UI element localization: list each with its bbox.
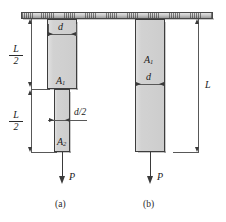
panel-b-caption: (b)	[143, 200, 154, 210]
panel-b-area1-label: A1	[144, 55, 153, 66]
panel-b-d-arrow-left-icon	[136, 82, 141, 86]
fixed-support-hatching	[21, 12, 213, 19]
panel-b-length-top-arrow-icon	[195, 19, 199, 24]
panel-b-length-bottom-arrow-icon	[195, 147, 199, 152]
panel-a-d-arrow-left-icon	[48, 32, 53, 36]
panel-a-d2-arrow-right-icon	[65, 118, 70, 122]
panel-b-d-label: d	[146, 72, 151, 82]
engineering-figure: d A1 d/2 A2 L 2 L 2 P (a) A1 d L	[0, 0, 226, 222]
panel-b-area1-subscript: 1	[150, 58, 153, 65]
panel-a-length-upper-denominator: 2	[9, 55, 23, 67]
panel-a-length-mid-arrow-upper-icon	[28, 82, 32, 87]
panel-a-area1-subscript: 1	[62, 79, 65, 86]
panel-a-length-lower-label: L 2	[9, 110, 23, 132]
panel-a-length-bottom-arrow-icon	[28, 147, 32, 152]
panel-a-area1-label: A1	[56, 76, 65, 87]
panel-a-force-line	[62, 152, 63, 178]
panel-a-force-arrowhead-icon	[59, 176, 65, 184]
panel-b-d-arrow-right-icon	[159, 82, 164, 86]
panel-a-length-upper-label: L 2	[9, 44, 23, 66]
panel-b-length-dimension-line	[198, 19, 199, 152]
panel-a-d2-arrow-left-icon	[49, 118, 54, 122]
panel-a-area2-label: A2	[57, 137, 66, 148]
panel-a-length-upper-numerator: L	[9, 44, 23, 55]
panel-b-force-arrowhead-icon	[147, 176, 153, 184]
panel-a-witness-bottom	[31, 152, 57, 153]
panel-a-force-label: P	[69, 172, 75, 182]
panel-b-force-line	[150, 152, 151, 178]
panel-a-d-arrow-right-icon	[71, 32, 76, 36]
panel-b-length-label: L	[205, 80, 211, 90]
panel-a-caption: (a)	[55, 200, 66, 210]
panel-a-length-lower-denominator: 2	[9, 121, 23, 133]
panel-b-force-label: P	[157, 172, 163, 182]
panel-b-witness-bottom	[173, 152, 199, 153]
panel-a-length-top-arrow-icon	[28, 19, 32, 24]
panel-a-length-mid-arrow-lower-icon	[28, 90, 32, 95]
panel-a-d-label: d	[58, 22, 63, 32]
panel-a-d-extension-right	[76, 24, 77, 36]
panel-a-area2-subscript: 2	[63, 140, 66, 147]
panel-a-length-lower-numerator: L	[9, 110, 23, 121]
panel-a-d2-label: d/2	[74, 108, 86, 118]
panel-a-witness-step	[31, 89, 50, 90]
